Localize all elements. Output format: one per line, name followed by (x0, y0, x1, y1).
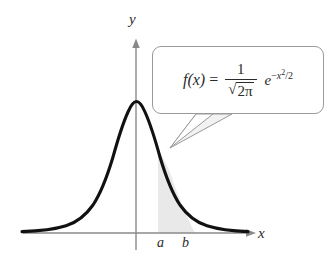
fraction-bar (225, 79, 256, 80)
formula-numerator: 1 (231, 62, 251, 78)
formula-denominator: √2π (225, 81, 256, 100)
formula-callout-box: f(x) = 1 √2π e−x2/2 (152, 46, 324, 114)
x-axis-label: x (258, 226, 265, 241)
y-axis (132, 39, 139, 251)
formula-lhs: f(x) (183, 71, 205, 89)
x-tick-label-a: a (157, 236, 164, 250)
formula-equals: = (209, 71, 218, 89)
x-tick-label-b: b (182, 236, 189, 250)
exponent: −x2/2 (271, 70, 293, 81)
y-axis-label: y (129, 12, 136, 27)
exponential-term: e−x2/2 (265, 72, 294, 89)
exponent-divider: /2 (285, 70, 293, 81)
figure-canvas (0, 0, 336, 271)
callout-pointer (170, 114, 232, 148)
radical-body: 2π (236, 82, 253, 100)
math-expression: f(x) = 1 √2π e−x2/2 (183, 61, 293, 99)
normal-distribution-figure: f(x) = 1 √2π e−x2/2 y x a b (0, 0, 336, 271)
radical-sign: √ (228, 81, 236, 100)
formula-expression: f(x) = 1 √2π e−x2/2 (153, 47, 323, 113)
formula-fraction: 1 √2π (225, 62, 256, 100)
radical: √2π (228, 81, 253, 100)
shaded-area-a-to-b (158, 150, 195, 233)
